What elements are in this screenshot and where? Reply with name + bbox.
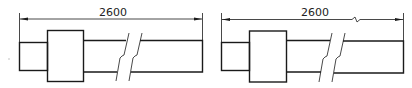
- stray-mark: [8, 58, 10, 60]
- small-collar: [222, 43, 250, 71]
- large-collar: [48, 31, 84, 82]
- small-collar: [20, 43, 48, 71]
- large-collar: [250, 31, 287, 82]
- break-line-2: [332, 33, 345, 82]
- shaft-left-part: [287, 41, 331, 73]
- shaft-right-part: [131, 41, 203, 73]
- figure-right: [222, 13, 404, 82]
- drawing-canvas: 2600 2600: [0, 0, 412, 88]
- figure-left: [20, 13, 203, 82]
- shaft-left-part: [84, 41, 127, 73]
- shaft-right-part: [334, 41, 404, 73]
- dimension-label-left: 2600: [99, 6, 127, 19]
- dimension-label-right: 2600: [301, 6, 329, 19]
- break-line-2: [129, 33, 142, 81]
